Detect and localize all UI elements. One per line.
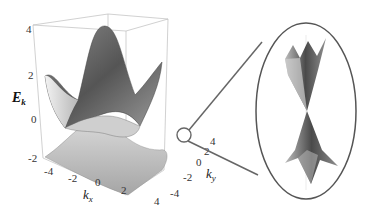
y-tick-4: 4 [210,135,216,147]
dirac-cone-inset [256,23,356,199]
y-axis-label: ky [206,166,216,183]
z-tick-2: 2 [28,69,34,81]
y-tick-neg4: -4 [170,187,180,199]
z-tick-4: 4 [26,23,32,35]
x-axis-label: kx [83,187,93,204]
x-tick-neg4: -4 [44,165,54,177]
x-tick-neg2: -2 [68,172,77,184]
y-tick-neg2: -2 [183,171,192,183]
x-tick-2: 2 [121,184,127,196]
z-tick-0: 0 [31,113,37,125]
band-structure-figure: 4 2 0 -2 Ek -4 -2 0 2 4 kx -4 -2 0 2 4 k… [0,0,382,214]
upper-band-surface [45,26,162,137]
z-tick-neg2: -2 [28,152,37,164]
x-tick-4: 4 [154,195,160,207]
y-tick-0: 0 [196,156,202,168]
callout [177,42,262,175]
x-tick-0: 0 [95,176,101,188]
z-axis-label: Ek [11,90,26,107]
